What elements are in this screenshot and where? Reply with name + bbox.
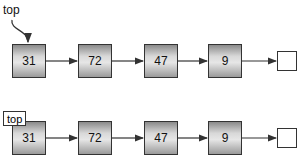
list-node-1: 31 [12, 121, 46, 155]
null-terminator-icon [277, 128, 297, 148]
top-pointer-box: top [3, 111, 26, 126]
top-pointer-label: top [3, 3, 20, 17]
list-node-4: 9 [208, 44, 242, 78]
list-node-2: 72 [78, 44, 112, 78]
null-terminator-icon [277, 51, 297, 71]
list-node-2: 72 [78, 121, 112, 155]
list-node-1: 31 [12, 44, 46, 78]
list-node-4: 9 [208, 121, 242, 155]
list-node-3: 47 [144, 44, 178, 78]
list-node-3: 47 [144, 121, 178, 155]
